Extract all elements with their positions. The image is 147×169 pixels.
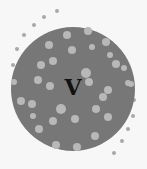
inside-particle: [34, 76, 42, 84]
outside-particle: [22, 33, 26, 37]
inside-particle: [85, 78, 93, 86]
inside-particle: [56, 104, 66, 114]
inside-particle: [17, 97, 25, 105]
outside-particle: [120, 139, 124, 143]
inside-particle: [99, 93, 107, 101]
outside-particle: [131, 114, 135, 118]
inside-particle: [104, 113, 112, 121]
outside-particle: [11, 63, 15, 67]
outside-particle: [32, 23, 36, 27]
inside-particle: [37, 61, 45, 69]
inside-particle: [121, 65, 127, 71]
inside-particle: [11, 79, 17, 85]
inside-particle: [28, 100, 36, 108]
inside-particle: [35, 125, 43, 133]
inside-particle: [112, 60, 120, 68]
inside-particle: [102, 38, 110, 46]
outside-particle: [42, 15, 46, 19]
inside-particle: [46, 82, 54, 90]
outside-particle: [15, 47, 19, 51]
inside-particle: [73, 143, 81, 151]
inside-particle: [49, 57, 57, 65]
inside-particle: [84, 27, 92, 35]
diagram-canvas: V: [0, 0, 147, 169]
inside-particle: [107, 52, 113, 58]
inside-particle: [92, 105, 100, 113]
inside-particle: [89, 44, 95, 50]
inside-particle: [30, 113, 36, 119]
inside-particle: [91, 132, 99, 140]
outside-particle: [55, 9, 59, 13]
inside-particle: [125, 80, 131, 86]
inside-particle: [104, 86, 112, 94]
circle-label: V: [62, 76, 84, 98]
inside-particle: [52, 141, 60, 149]
inside-particle: [45, 41, 53, 49]
outside-particle: [126, 127, 130, 131]
inside-particle: [68, 46, 76, 54]
inside-particle: [49, 117, 57, 125]
inside-particle: [71, 115, 79, 123]
inside-particle: [63, 31, 71, 39]
outside-particle: [112, 151, 116, 155]
